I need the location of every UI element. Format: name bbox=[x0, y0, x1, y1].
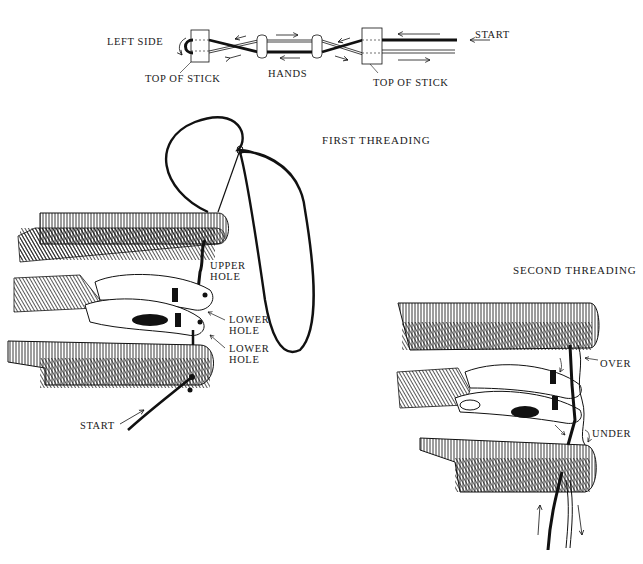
second-threading-title: SECOND THREADING bbox=[513, 265, 637, 276]
first-threading-figure bbox=[8, 117, 314, 430]
top-schematic bbox=[179, 28, 490, 73]
top-of-stick-left-label: TOP OF STICK bbox=[145, 73, 220, 84]
hand-right-shape bbox=[312, 35, 322, 58]
under-label: UNDER bbox=[592, 428, 631, 439]
left-side-label: LEFT SIDE bbox=[107, 36, 163, 47]
over-label: OVER bbox=[600, 358, 631, 369]
lower-hole-b-line1: LOWER bbox=[229, 343, 269, 354]
upper-hole-line1: UPPER bbox=[210, 260, 246, 271]
start-label-top: START bbox=[475, 29, 510, 40]
hand-left-shape bbox=[257, 35, 267, 58]
start-label-first: START bbox=[80, 420, 115, 431]
stick-right-box bbox=[362, 28, 382, 64]
lower-hole-a-line2: HOLE bbox=[229, 325, 259, 336]
down-arrow-icon bbox=[578, 505, 582, 535]
top-of-stick-right-label: TOP OF STICK bbox=[373, 77, 448, 88]
upper-hole-label: UPPER HOLE bbox=[210, 260, 246, 282]
stick-left-box bbox=[191, 30, 209, 62]
second-threading-figure bbox=[397, 303, 599, 550]
lower-hole-b-line2: HOLE bbox=[229, 354, 259, 365]
lower-hole-a-line1: LOWER bbox=[229, 314, 269, 325]
start-arrow-icon bbox=[120, 410, 144, 424]
lower-hole-label-a: LOWER HOLE bbox=[229, 314, 269, 336]
first-threading-title: FIRST THREADING bbox=[322, 135, 430, 146]
up-arrow-icon bbox=[538, 505, 540, 535]
lower-hole-label-b: LOWER HOLE bbox=[229, 343, 269, 365]
needle bbox=[218, 150, 240, 212]
illustration-canvas bbox=[0, 0, 643, 564]
upper-hole-line2: HOLE bbox=[210, 271, 240, 282]
hands-label: HANDS bbox=[268, 68, 307, 79]
